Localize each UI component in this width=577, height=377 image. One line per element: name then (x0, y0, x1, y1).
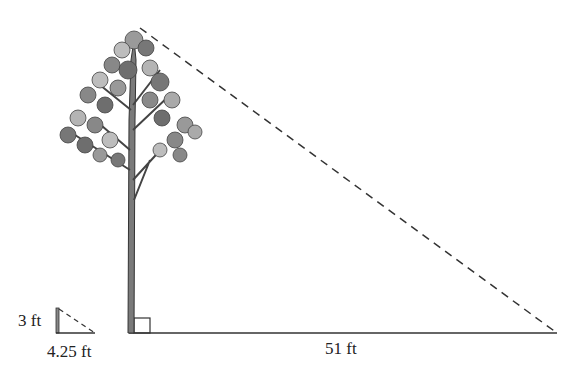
tree-icon (60, 31, 202, 333)
small-dashed-ray (59, 309, 95, 333)
small-pole (56, 308, 59, 333)
small-shadow-label: 4.25 ft (47, 342, 91, 362)
tree-shadow-label: 51 ft (325, 339, 357, 359)
similar-triangles-diagram (0, 0, 577, 377)
sun-ray-dashed-line (140, 28, 557, 333)
right-angle-marker (134, 318, 150, 333)
small-height-label: 3 ft (18, 311, 41, 331)
